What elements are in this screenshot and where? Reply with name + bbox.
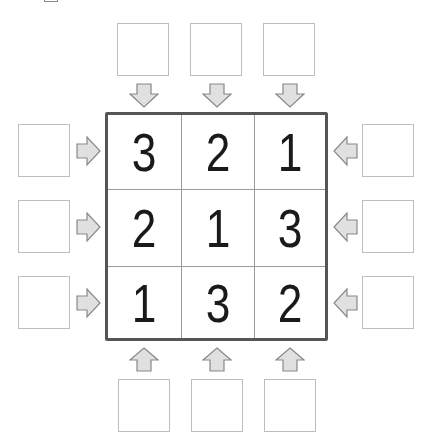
- clue-box-bottom-2[interactable]: [191, 379, 243, 432]
- clue-box-left-1[interactable]: [18, 124, 70, 177]
- square-bullet-icon: [44, 0, 58, 2]
- grid-cell[interactable]: 3: [108, 115, 182, 190]
- cell-value: 1: [132, 272, 157, 334]
- number-grid: 3 2 1 2 1 3 1 3 2: [105, 112, 328, 341]
- clue-box-right-1[interactable]: [362, 124, 414, 177]
- grid-cell[interactable]: 1: [108, 267, 182, 338]
- clue-box-bottom-3[interactable]: [264, 379, 316, 432]
- cell-value: 2: [206, 121, 231, 183]
- cell-value: 3: [278, 197, 303, 259]
- cell-value: 1: [278, 121, 303, 183]
- clue-box-top-1[interactable]: [117, 23, 169, 76]
- cell-value: 2: [132, 197, 157, 259]
- cell-value: 1: [206, 197, 231, 259]
- grid-cell[interactable]: 2: [108, 190, 182, 267]
- cell-value: 2: [278, 272, 303, 334]
- cell-value: 3: [206, 272, 231, 334]
- cell-value: 3: [132, 121, 157, 183]
- arrow-down-icon: [275, 83, 305, 108]
- clue-box-top-2[interactable]: [190, 23, 242, 76]
- arrow-left-icon: [333, 136, 358, 167]
- arrow-right-icon: [76, 136, 101, 167]
- clue-box-top-3[interactable]: [263, 23, 315, 76]
- grid-cell[interactable]: 3: [255, 190, 325, 267]
- arrow-up-icon: [275, 347, 305, 373]
- arrow-down-icon: [202, 83, 232, 108]
- grid-cell[interactable]: 1: [255, 115, 325, 190]
- arrow-down-icon: [129, 83, 159, 108]
- grid-cell[interactable]: 3: [182, 267, 255, 338]
- clue-box-bottom-1[interactable]: [118, 379, 170, 432]
- grid-cell[interactable]: 1: [182, 190, 255, 267]
- arrow-right-icon: [76, 212, 101, 243]
- clipped-instruction-text: [44, 0, 314, 4]
- arrow-right-icon: [76, 288, 101, 319]
- arrow-up-icon: [129, 347, 159, 373]
- clue-box-right-2[interactable]: [362, 200, 414, 253]
- grid-cell[interactable]: 2: [255, 267, 325, 338]
- clue-box-left-3[interactable]: [18, 276, 70, 329]
- clue-box-left-2[interactable]: [18, 200, 70, 253]
- grid-cell[interactable]: 2: [182, 115, 255, 190]
- arrow-left-icon: [333, 212, 358, 243]
- clue-box-right-3[interactable]: [362, 276, 414, 329]
- arrow-left-icon: [333, 288, 358, 319]
- arrow-up-icon: [202, 347, 232, 373]
